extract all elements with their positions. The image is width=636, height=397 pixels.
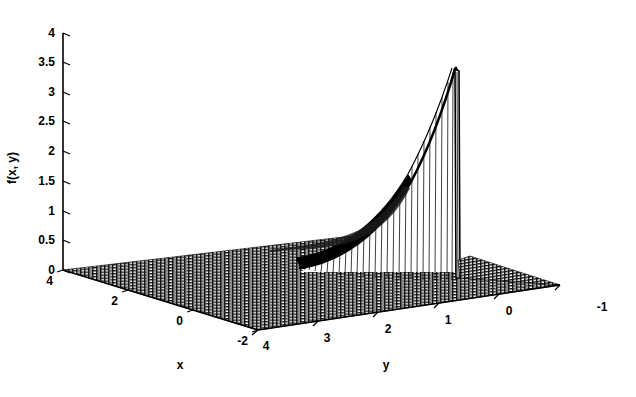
y-tick-label-2: 2 xyxy=(385,322,392,336)
y-tick-label-1: 1 xyxy=(445,313,452,327)
surface-plot-figure: 4 3.5 3 2.5 2 1.5 1 0.5 0 f(x, y) 4 2 0 … xyxy=(0,0,636,397)
x-axis-title: x xyxy=(177,358,184,372)
plot-canvas: 4 3.5 3 2.5 2 1.5 1 0.5 0 f(x, y) 4 2 0 … xyxy=(0,0,636,397)
ridge-surface xyxy=(270,66,460,280)
z-tick-label-2p5: 2.5 xyxy=(38,114,55,128)
z-tick-label-4: 4 xyxy=(48,26,55,40)
x-tick-label-4: 4 xyxy=(46,274,53,288)
z-tick-label-3: 3 xyxy=(48,85,55,99)
y-tick-label-0: 0 xyxy=(506,304,513,318)
x-tick-label-2: 2 xyxy=(111,294,118,308)
z-axis-title: f(x, y) xyxy=(5,152,19,184)
y-tick-label-4: 4 xyxy=(263,339,270,353)
z-tick-label-1p5: 1.5 xyxy=(38,174,55,188)
x-tick-label-0: 0 xyxy=(176,314,183,328)
z-tick-label-2: 2 xyxy=(48,144,55,158)
z-axis-ticks xyxy=(63,33,70,273)
y-axis-title: y xyxy=(383,358,390,372)
z-tick-label-3p5: 3.5 xyxy=(38,55,55,69)
y-tick-label-neg1: -1 xyxy=(597,300,608,314)
y-tick-label-3: 3 xyxy=(324,331,331,345)
base-plane-mesh xyxy=(63,236,560,330)
z-tick-label-1: 1 xyxy=(48,204,55,218)
z-tick-label-0p5: 0.5 xyxy=(38,233,55,247)
x-tick-label-neg2: -2 xyxy=(237,334,248,348)
z-axis: 4 3.5 3 2.5 2 1.5 1 0.5 0 f(x, y) xyxy=(5,26,70,277)
